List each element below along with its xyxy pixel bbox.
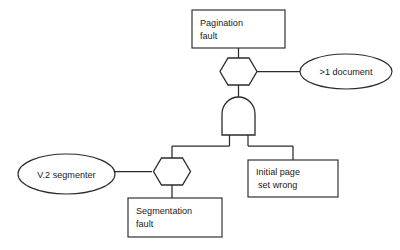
and-gate-shape[interactable] bbox=[222, 97, 255, 135]
inhibit-gate-bottom-hexagon[interactable] bbox=[154, 158, 191, 185]
inhibit-gate-top-hexagon[interactable] bbox=[220, 58, 257, 85]
pagination-fault-label-line1: Pagination bbox=[200, 18, 243, 28]
initial-page-set-wrong-label-line2: set wrong bbox=[258, 180, 297, 190]
node-segmentation-fault[interactable]: Segmentation fault bbox=[128, 198, 222, 237]
node-pagination-fault[interactable]: Pagination fault bbox=[192, 10, 285, 48]
pagination-fault-label-line2: fault bbox=[200, 31, 218, 41]
v2-segmenter-label: V.2 segmenter bbox=[37, 170, 95, 180]
gate-inhibit-bottom[interactable] bbox=[154, 158, 191, 185]
initial-page-set-wrong-box[interactable] bbox=[248, 160, 338, 197]
segmentation-fault-box[interactable] bbox=[128, 198, 222, 237]
node-v2-segmenter[interactable]: V.2 segmenter bbox=[18, 154, 115, 194]
fault-tree-diagram: Pagination fault >1 document V.2 segment… bbox=[0, 0, 400, 250]
initial-page-set-wrong-label-line1: Initial page bbox=[256, 167, 300, 177]
node-more-than-one-document[interactable]: >1 document bbox=[300, 54, 392, 89]
fault-tree-canvas: Pagination fault >1 document V.2 segment… bbox=[0, 0, 400, 250]
pagination-fault-box[interactable] bbox=[192, 10, 285, 48]
segmentation-fault-label-line2: fault bbox=[136, 219, 154, 229]
more-than-one-document-label: >1 document bbox=[320, 67, 373, 77]
gate-and[interactable] bbox=[222, 97, 255, 135]
node-initial-page-set-wrong[interactable]: Initial page set wrong bbox=[248, 160, 338, 197]
segmentation-fault-label-line1: Segmentation bbox=[136, 206, 192, 216]
gate-inhibit-top[interactable] bbox=[220, 58, 257, 85]
